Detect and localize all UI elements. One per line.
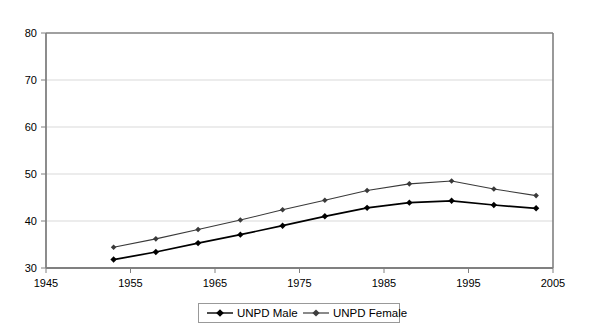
y-axis-label-60: 60 (25, 121, 37, 133)
legend-label-female: UNPD Female (333, 307, 407, 319)
y-axis-label-50: 50 (25, 168, 37, 180)
chart-container: 80 70 60 50 40 30 1945 1955 1965 1975 19… (0, 0, 595, 332)
x-axis-label-1955: 1955 (118, 277, 142, 289)
legend: UNPD Male UNPD Female (199, 304, 408, 323)
x-axis-label-1995: 1995 (456, 277, 480, 289)
x-axis-label-1985: 1985 (372, 277, 396, 289)
x-axis-label-1975: 1975 (287, 277, 311, 289)
line-chart: 80 70 60 50 40 30 1945 1955 1965 1975 19… (0, 0, 595, 332)
y-axis-label-80: 80 (25, 27, 37, 39)
y-axis-label-70: 70 (25, 74, 37, 86)
x-axis-label-1945: 1945 (34, 277, 58, 289)
y-axis-label-30: 30 (25, 262, 37, 274)
x-axis-label-2005: 2005 (541, 277, 565, 289)
y-axis-label-40: 40 (25, 215, 37, 227)
x-axis-label-1965: 1965 (203, 277, 227, 289)
legend-label-male: UNPD Male (237, 307, 298, 319)
